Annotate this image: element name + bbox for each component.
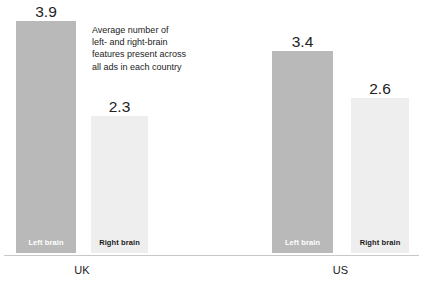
annotation-line-3: features present across: [92, 48, 208, 60]
value-label-uk-left: 3.9: [16, 3, 76, 20]
group-label-uk: UK: [16, 264, 148, 277]
bar-us-left-brain: Left brain: [272, 51, 333, 253]
bar-uk-left-brain: Left brain: [16, 21, 76, 253]
annotation-line-4: all ads in each country: [92, 61, 208, 73]
baseline-axis: [4, 255, 419, 256]
bar-uk-right-brain: Right brain: [91, 116, 148, 253]
value-label-uk-right: 2.3: [91, 98, 148, 115]
value-label-us-right: 2.6: [351, 80, 409, 97]
annotation-line-1: Average number of: [92, 24, 208, 36]
chart-annotation: Average number of left- and right-brain …: [92, 24, 208, 73]
value-label-us-left: 3.4: [272, 33, 333, 50]
bar-label-uk-left-brain: Left brain: [16, 238, 76, 247]
bar-label-us-left-brain: Left brain: [272, 238, 333, 247]
group-label-us: US: [272, 264, 409, 277]
bar-label-uk-right-brain: Right brain: [91, 238, 148, 247]
bar-label-us-right-brain: Right brain: [351, 238, 409, 247]
bar-chart-figure: 3.9 Left brain 2.3 Right brain 3.4 Left …: [0, 0, 423, 297]
annotation-line-2: left- and right-brain: [92, 36, 208, 48]
bar-us-right-brain: Right brain: [351, 98, 409, 253]
plot-area: 3.9 Left brain 2.3 Right brain 3.4 Left …: [0, 0, 423, 255]
